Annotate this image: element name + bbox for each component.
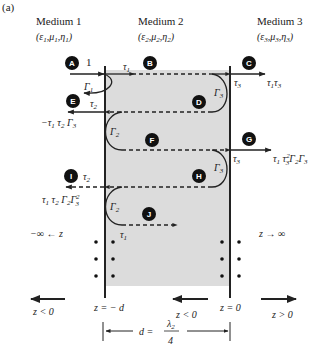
point-J: J bbox=[142, 207, 156, 221]
svg-text:G: G bbox=[246, 135, 252, 144]
medium-2-params: (ε2,μ2,η2) bbox=[138, 31, 175, 44]
label-thickness: d = bbox=[139, 326, 153, 337]
slab-medium-2 bbox=[105, 70, 229, 286]
medium-3-params: (ε3,μ3,η3) bbox=[257, 31, 294, 44]
point-E: E bbox=[66, 94, 80, 108]
svg-text:C: C bbox=[246, 59, 252, 68]
label-right-infinity: z → ∞ bbox=[258, 228, 285, 239]
medium-1-title: Medium 1 bbox=[36, 15, 82, 27]
label-z-eq-0: z = 0 bbox=[219, 302, 241, 313]
svg-text:A: A bbox=[69, 59, 75, 68]
label-tau2-I: τ2 bbox=[83, 171, 91, 184]
label-left-infinity: −∞ ← z bbox=[30, 228, 63, 239]
svg-text:I: I bbox=[70, 172, 72, 181]
label-z-lt-0-left: z < 0 bbox=[32, 306, 54, 317]
medium-2-title: Medium 2 bbox=[138, 15, 184, 27]
svg-text:D: D bbox=[196, 98, 202, 107]
label-out-C: τ1τ3 bbox=[267, 77, 282, 90]
point-G: G bbox=[242, 132, 256, 146]
panel-label: (a) bbox=[2, 1, 15, 14]
label-z-lt-0-mid: z < 0 bbox=[175, 309, 197, 320]
medium-1-params: (ε1,μ1,η1) bbox=[36, 31, 73, 44]
label-incident: 1 bbox=[86, 56, 92, 68]
svg-text:B: B bbox=[147, 59, 153, 68]
point-D: D bbox=[192, 95, 206, 109]
point-C: C bbox=[242, 56, 256, 70]
point-A: A bbox=[65, 56, 79, 70]
svg-text:E: E bbox=[70, 97, 76, 106]
multilayer-reflection-diagram: (a) Medium 1 (ε1,μ1,η1) Medium 2 (ε2,μ2,… bbox=[0, 0, 320, 356]
medium-3-title: Medium 3 bbox=[257, 15, 303, 27]
label-thickness-num: λ2 bbox=[166, 318, 175, 331]
label-out-I: τ1 τ2 Γ2Γ23 bbox=[42, 193, 80, 208]
point-H: H bbox=[192, 169, 206, 183]
svg-text:J: J bbox=[147, 210, 151, 219]
svg-text:H: H bbox=[196, 172, 202, 181]
point-I: I bbox=[64, 169, 78, 183]
point-F: F bbox=[145, 133, 159, 147]
label-tau3-G: τ3 bbox=[233, 153, 241, 166]
label-tau3-top: τ3 bbox=[234, 77, 242, 90]
label-thickness-den: 4 bbox=[168, 335, 173, 346]
label-out-E: −τ1 τ2 Γ3 bbox=[41, 117, 77, 130]
label-gamma1: Γ1 bbox=[83, 81, 93, 94]
svg-text:F: F bbox=[150, 136, 155, 145]
label-z-eq-minus-d: z = − d bbox=[93, 302, 125, 313]
point-B: B bbox=[143, 56, 157, 70]
label-out-G: τ1 τ23Γ2Γ3 bbox=[273, 152, 308, 167]
label-z-gt-0: z > 0 bbox=[271, 309, 293, 320]
label-tau2-E: τ2 bbox=[90, 98, 98, 111]
